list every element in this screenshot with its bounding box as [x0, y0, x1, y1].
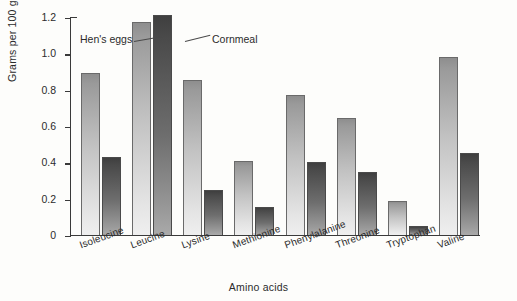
- bar-isoleucine-cornmeal: [102, 157, 121, 235]
- chart-figure: Grams per 100 grams 00.20.40.60.81.01.2 …: [0, 0, 517, 301]
- plot-area: 00.20.40.60.81.01.2: [70, 18, 480, 236]
- bar-phenylalanine-hen-s-eggs: [286, 95, 305, 235]
- y-axis-tick: 1.0: [65, 54, 71, 55]
- y-axis-tick-label: 0.2: [41, 193, 56, 205]
- x-axis-title: Amino acids: [0, 281, 517, 293]
- bar-isoleucine-hen-s-eggs: [81, 73, 100, 235]
- annotation-label-cornmeal: Cornmeal: [212, 33, 258, 45]
- y-axis-tick: 0.2: [65, 200, 71, 201]
- y-axis-tick: 0: [65, 236, 71, 237]
- y-axis-tick-label: 0: [50, 229, 56, 241]
- bar-leucine-hen-s-eggs: [132, 22, 151, 235]
- bar-lysine-hen-s-eggs: [183, 80, 202, 235]
- y-axis-tick: 0.4: [65, 163, 71, 164]
- y-axis-tick-label: 1.0: [41, 47, 56, 59]
- y-axis-tick: 1.2: [65, 18, 71, 19]
- y-axis-tick: 0.8: [65, 91, 71, 92]
- bar-phenylalanine-cornmeal: [307, 162, 326, 235]
- y-axis-tick-label: 1.2: [41, 11, 56, 23]
- bar-valine-cornmeal: [460, 153, 479, 235]
- bar-leucine-cornmeal: [153, 15, 172, 235]
- bar-methionine-hen-s-eggs: [234, 161, 253, 235]
- bar-valine-hen-s-eggs: [439, 57, 458, 235]
- bar-threonine-hen-s-eggs: [337, 118, 356, 235]
- y-axis-tick-label: 0.4: [41, 156, 56, 168]
- bar-lysine-cornmeal: [204, 190, 223, 235]
- y-axis-tick: 0.6: [65, 127, 71, 128]
- bar-tryptophan-hen-s-eggs: [388, 201, 407, 235]
- y-axis-tick-label: 0.8: [41, 84, 56, 96]
- y-axis-title: Grams per 100 grams: [6, 0, 22, 94]
- y-axis-tick-label: 0.6: [41, 120, 56, 132]
- annotation-label-hens-eggs: Hen's eggs: [80, 33, 132, 45]
